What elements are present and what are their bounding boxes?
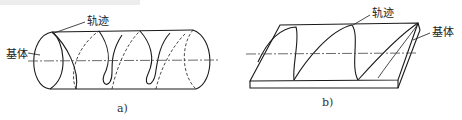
substrate-label-b: 基体 bbox=[432, 27, 454, 38]
plate-top-face bbox=[250, 23, 418, 81]
trajectory-label-b: 轨迹 bbox=[372, 8, 394, 19]
caption-a: a) bbox=[117, 103, 128, 114]
cylinder-panel-a bbox=[28, 22, 210, 89]
caption-b: b) bbox=[322, 97, 333, 108]
substrate-label-a: 基体 bbox=[6, 49, 28, 60]
plate-panel-b bbox=[250, 15, 430, 88]
axis-centerline-a bbox=[28, 60, 218, 61]
cylinder-right-end bbox=[193, 30, 210, 89]
axis-centerline-b bbox=[246, 53, 418, 54]
trajectory-label-a: 轨迹 bbox=[87, 16, 109, 27]
